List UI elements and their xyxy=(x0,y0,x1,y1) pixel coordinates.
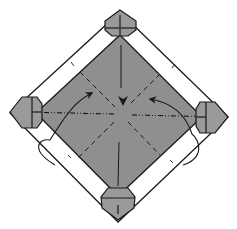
main-diamond xyxy=(36,35,202,196)
corner-flap-left xyxy=(10,97,42,128)
origami-diagram xyxy=(0,0,237,229)
corner-flap-bottom xyxy=(101,188,135,220)
corner-flap-right xyxy=(196,102,228,133)
diagram-canvas xyxy=(0,0,237,229)
corner-flap-top xyxy=(105,10,136,36)
